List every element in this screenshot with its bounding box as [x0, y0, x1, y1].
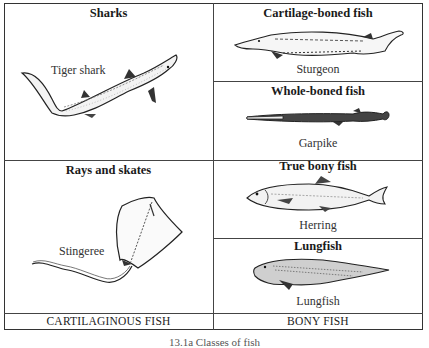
- cell-rays-and-skates: Rays and skates Stingeree: [4, 160, 213, 313]
- herring-icon: [213, 156, 423, 238]
- cell-lungfish: Lungfish Lungfish: [213, 238, 423, 313]
- cell-true-bony-fish: True bony fish Herring: [213, 156, 423, 238]
- figure-caption: 13.1a Classes of fish: [0, 336, 429, 348]
- cell-cartilage-boned-fish: Cartilage-boned fish Sturgeon: [213, 3, 423, 81]
- garpike-icon: [213, 81, 423, 156]
- class-footer-bony: BONY FISH: [213, 315, 423, 327]
- lungfish-icon: [213, 238, 423, 313]
- cell-sharks: Sharks Tiger shark: [4, 3, 213, 160]
- sturgeon-icon: [213, 3, 423, 81]
- tiger-shark-icon: [4, 3, 213, 160]
- stingray-icon: [4, 160, 213, 313]
- cell-whole-boned-fish: Whole-boned fish Garpike: [213, 81, 423, 156]
- class-footer-cartilaginous: CARTILAGINOUS FISH: [4, 315, 213, 327]
